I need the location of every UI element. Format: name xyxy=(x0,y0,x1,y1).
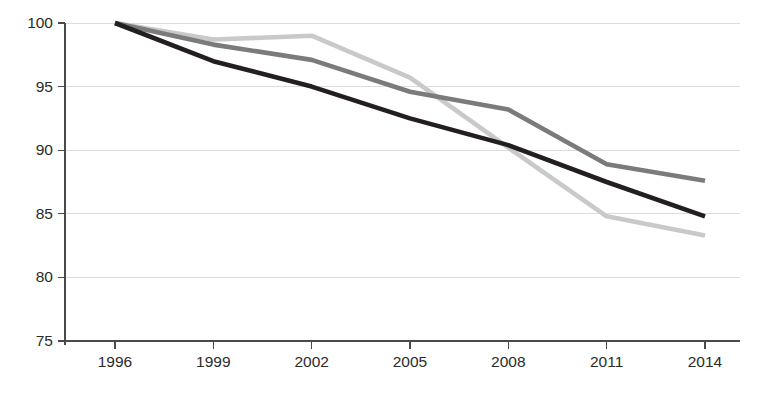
chart-canvas: 1009590858075 19961999200220052008201120… xyxy=(0,0,776,405)
y-axis-tick-label: 90 xyxy=(36,141,54,158)
y-axis-tick-label: 85 xyxy=(36,205,53,222)
y-axis-tick-label: 75 xyxy=(36,332,53,349)
series-line-series-black xyxy=(115,23,705,216)
line-chart: 1009590858075 19961999200220052008201120… xyxy=(0,0,776,405)
y-axis-tick-label: 100 xyxy=(27,14,53,31)
y-axis-tick-label: 95 xyxy=(36,78,53,95)
x-axis-ticks-group xyxy=(115,341,705,349)
y-axis-ticks-group xyxy=(58,23,65,341)
series-group xyxy=(115,23,705,235)
gridlines-group xyxy=(65,23,740,277)
x-axis-tick-label: 1996 xyxy=(98,353,132,370)
x-axis-tick-label: 2014 xyxy=(688,353,723,370)
y-axis-labels-group: 1009590858075 xyxy=(27,14,53,349)
x-axis-tick-label: 2011 xyxy=(590,353,623,370)
x-axis-tick-label: 1999 xyxy=(196,353,230,370)
x-axis-labels-group: 1996199920022005200820112014 xyxy=(98,353,723,370)
x-axis-tick-label: 2008 xyxy=(491,353,525,370)
x-axis-tick-label: 2005 xyxy=(393,353,427,370)
series-line-series-light-gray xyxy=(115,23,705,235)
x-axis-tick-label: 2002 xyxy=(294,353,328,370)
series-line-series-medium-gray xyxy=(115,23,705,181)
y-axis-tick-label: 80 xyxy=(36,268,54,285)
axes-group xyxy=(65,23,740,345)
